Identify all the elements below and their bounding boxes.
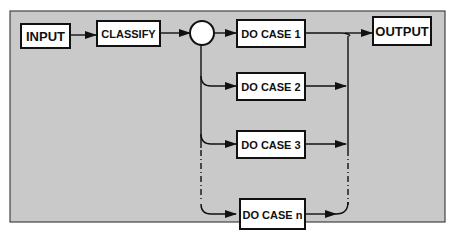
node-case-3-label: DO CASE 3 — [241, 139, 300, 151]
node-input: INPUT — [21, 24, 70, 48]
node-case-2: DO CASE 2 — [237, 73, 305, 100]
node-classify: CLASSIFY — [97, 21, 160, 46]
node-case-1: DO CASE 1 — [237, 20, 305, 47]
node-case-n: DO CASE n — [240, 199, 305, 229]
node-output-label: OUTPUT — [375, 24, 429, 39]
node-case-n-label: DO CASE n — [243, 209, 303, 221]
node-case-2-label: DO CASE 2 — [241, 81, 300, 93]
flow-diagram: INPUT CLASSIFY DO CASE 1 DO CASE 2 DO CA… — [0, 0, 454, 243]
node-output: OUTPUT — [373, 17, 431, 45]
decision-circle — [190, 21, 214, 45]
node-case-3: DO CASE 3 — [237, 131, 305, 158]
node-input-label: INPUT — [26, 29, 65, 44]
node-case-1-label: DO CASE 1 — [241, 28, 300, 40]
node-classify-label: CLASSIFY — [101, 28, 156, 40]
